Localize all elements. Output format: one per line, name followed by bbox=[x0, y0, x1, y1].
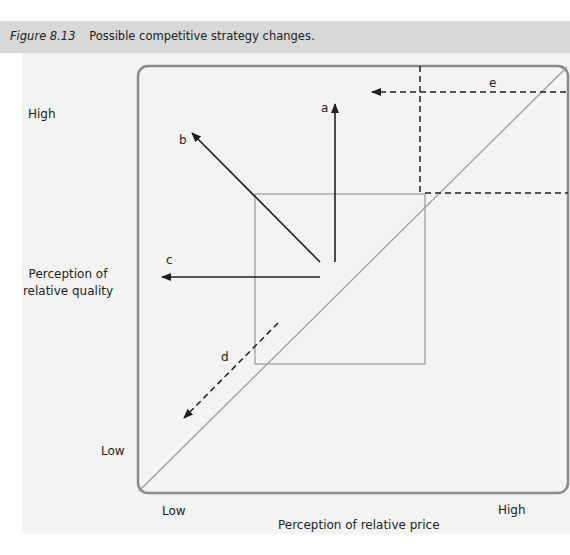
y-axis-high-label: High bbox=[28, 107, 56, 121]
arrow-label-e: e bbox=[489, 76, 496, 90]
y-axis-title-line1: Perception of bbox=[18, 266, 118, 283]
x-axis-high-label: High bbox=[498, 503, 526, 517]
arrow-label-c: c bbox=[166, 253, 173, 267]
inner-square bbox=[255, 194, 425, 364]
diagonal-line bbox=[139, 67, 567, 491]
arrow-label-d: d bbox=[221, 350, 229, 364]
arrow-label-a: a bbox=[321, 101, 328, 115]
y-axis-title: Perception of relative quality bbox=[18, 266, 118, 300]
y-axis-low-label: Low bbox=[101, 444, 125, 458]
x-axis-low-label: Low bbox=[162, 504, 186, 518]
x-axis-title: Perception of relative price bbox=[278, 518, 440, 532]
arrow-b bbox=[192, 133, 320, 262]
y-axis-title-line2: relative quality bbox=[18, 283, 118, 300]
arrow-label-b: b bbox=[179, 133, 187, 147]
arrow-d bbox=[184, 323, 278, 418]
